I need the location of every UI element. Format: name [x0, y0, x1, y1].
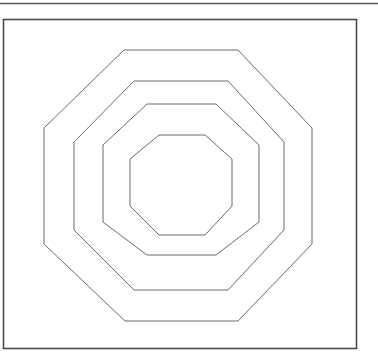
nested-octagons-figure: [0, 0, 378, 359]
page-background: [0, 0, 378, 359]
figure-root: [0, 0, 378, 359]
